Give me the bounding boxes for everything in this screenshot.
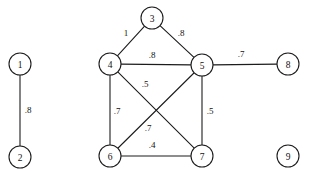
node-label-3: 3 <box>150 14 155 24</box>
edge-weight-1-2: .8 <box>25 105 32 115</box>
graph-node-2[interactable]: 2 <box>9 146 31 168</box>
graph-edge-5-8 <box>213 64 277 65</box>
edge-weight-5-7: .5 <box>207 106 214 116</box>
edge-weight-4-6: .7 <box>114 106 121 116</box>
node-label-8: 8 <box>286 60 291 70</box>
node-label-5: 5 <box>200 61 205 71</box>
graph-edge-4-5 <box>121 64 191 65</box>
graph-edge-4-3 <box>117 26 144 56</box>
graph-figure: 123456789 .81.8.8.7.5.7.7.5.4 <box>0 0 316 171</box>
edge-weight-5-8: .7 <box>238 49 245 59</box>
graph-node-8[interactable]: 8 <box>277 53 299 75</box>
graph-node-9[interactable]: 9 <box>277 145 299 167</box>
node-label-9: 9 <box>286 152 291 162</box>
graph-node-4[interactable]: 4 <box>99 53 121 75</box>
graph-canvas: 123456789 .81.8.8.7.5.7.7.5.4 <box>0 0 316 171</box>
graph-node-3[interactable]: 3 <box>141 7 163 29</box>
node-label-4: 4 <box>108 60 113 70</box>
edge-weight-4-5: .8 <box>149 50 156 60</box>
edges-layer <box>20 26 277 156</box>
edge-weight-3-5: .8 <box>178 28 185 38</box>
edge-weight-4-7: .5 <box>142 79 149 89</box>
graph-node-6[interactable]: 6 <box>99 145 121 167</box>
node-label-2: 2 <box>18 153 23 163</box>
graph-node-5[interactable]: 5 <box>191 54 213 76</box>
node-label-1: 1 <box>18 60 23 70</box>
node-label-6: 6 <box>108 152 113 162</box>
edge-weight-6-5: .7 <box>145 123 152 133</box>
graph-node-1[interactable]: 1 <box>9 53 31 75</box>
edge-weight-4-3: 1 <box>124 28 129 38</box>
edge-weight-6-7: .4 <box>149 140 156 150</box>
graph-node-7[interactable]: 7 <box>191 145 213 167</box>
node-label-7: 7 <box>200 152 205 162</box>
